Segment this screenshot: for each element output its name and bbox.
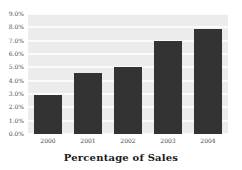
y-tick-label: 5.0% — [9, 64, 24, 70]
x-tick-label: 2001 — [68, 138, 108, 144]
y-tick-label: 2.0% — [9, 104, 24, 110]
x-axis: 20002001200220032004 — [28, 136, 228, 148]
y-tick-label: 4.0% — [9, 78, 24, 84]
bar[interactable] — [34, 95, 62, 134]
y-tick-label: 9.0% — [9, 11, 24, 17]
y-tick-label: 3.0% — [9, 91, 24, 97]
x-tick-label: 2004 — [188, 138, 228, 144]
y-tick-label: 8.0% — [9, 24, 24, 30]
plot-area — [28, 14, 228, 134]
x-tick-label: 2000 — [28, 138, 68, 144]
y-tick-label: 6.0% — [9, 51, 24, 57]
y-tick-label: 7.0% — [9, 38, 24, 44]
x-tick-label: 2002 — [108, 138, 148, 144]
x-tick-label: 2003 — [148, 138, 188, 144]
chart-title: Percentage of Sales — [0, 152, 242, 163]
bar[interactable] — [74, 73, 102, 134]
y-axis: 9.0%8.0%7.0%6.0%5.0%4.0%3.0%2.0%1.0%0.0% — [0, 14, 26, 134]
bar[interactable] — [194, 29, 222, 134]
bar[interactable] — [114, 67, 142, 134]
bars-layer — [28, 14, 228, 134]
y-tick-label: 0.0% — [9, 131, 24, 137]
bar[interactable] — [154, 41, 182, 134]
y-tick-label: 1.0% — [9, 118, 24, 124]
bar-chart: 9.0%8.0%7.0%6.0%5.0%4.0%3.0%2.0%1.0%0.0%… — [0, 0, 242, 170]
